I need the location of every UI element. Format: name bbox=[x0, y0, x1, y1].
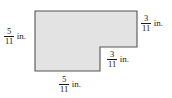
fraction-notch: 3 11 bbox=[107, 50, 117, 68]
dimension-label-bottom: 5 11 in. bbox=[59, 75, 81, 93]
fraction-left: 5 11 bbox=[4, 27, 14, 45]
fraction-numerator: 3 bbox=[143, 14, 149, 22]
dimension-label-top-right: 3 11 in. bbox=[141, 14, 163, 32]
fraction-bottom: 5 11 bbox=[59, 75, 69, 93]
fraction-numerator: 3 bbox=[109, 50, 115, 58]
fraction-denominator: 11 bbox=[141, 24, 151, 32]
geometry-figure: 5 11 in. 3 11 in. 3 11 in. 5 11 in. bbox=[0, 0, 172, 98]
fraction-numerator: 5 bbox=[6, 27, 12, 35]
fraction-denominator: 11 bbox=[4, 37, 14, 45]
fraction-top-right: 3 11 bbox=[141, 14, 151, 32]
dimension-label-notch: 3 11 in. bbox=[107, 50, 129, 68]
unit-label: in. bbox=[154, 19, 163, 28]
unit-label: in. bbox=[120, 55, 129, 64]
unit-label: in. bbox=[72, 80, 81, 89]
fraction-numerator: 5 bbox=[61, 75, 67, 83]
dimension-label-left: 5 11 in. bbox=[4, 27, 26, 45]
fraction-denominator: 11 bbox=[59, 85, 69, 93]
fraction-denominator: 11 bbox=[107, 60, 117, 68]
unit-label: in. bbox=[17, 32, 26, 41]
